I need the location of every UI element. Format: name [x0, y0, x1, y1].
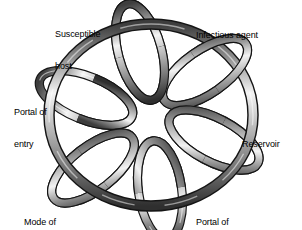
label-mode-of-transmission: Mode of transmission: [24, 196, 73, 230]
label-infectious-agent: Infectious agent: [196, 9, 258, 62]
label-mode-of-transmission-line1: Mode of: [24, 217, 73, 228]
chain-of-infection-figure: Susceptible host Infectious agent Portal…: [0, 0, 302, 230]
label-susceptible-host: Susceptible host: [55, 8, 100, 92]
label-portal-of-entry-line1: Portal of: [14, 107, 47, 118]
label-reservoir-line1: Reservoir: [242, 139, 280, 150]
label-susceptible-host-line2: host: [55, 61, 100, 72]
label-portal-of-exit: Portal of exit: [196, 196, 229, 230]
label-portal-of-entry-line2: entry: [14, 139, 47, 150]
label-reservoir: Reservoir: [242, 118, 280, 171]
label-susceptible-host-line1: Susceptible: [55, 29, 100, 40]
label-portal-of-entry: Portal of entry: [14, 86, 47, 170]
label-infectious-agent-line1: Infectious agent: [196, 30, 258, 41]
label-portal-of-exit-line1: Portal of: [196, 217, 229, 228]
